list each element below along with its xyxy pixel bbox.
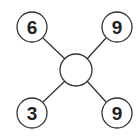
- connector-bottom-right: [87, 81, 106, 102]
- center-node-empty: [60, 54, 92, 86]
- node-top-left-value: 6: [27, 17, 38, 38]
- node-top-right-value: 9: [112, 17, 123, 38]
- number-puzzle-diagram: 6 9 3 9: [0, 0, 140, 139]
- connector-top-left: [43, 38, 65, 59]
- node-bottom-right-value: 9: [112, 103, 123, 124]
- connector-bottom-left: [43, 81, 65, 102]
- node-bottom-left-value: 3: [27, 103, 38, 124]
- connector-top-right: [87, 38, 106, 59]
